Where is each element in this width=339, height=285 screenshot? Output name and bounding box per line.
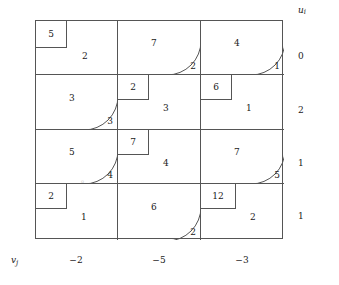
tableau-grid: 5 2 7 2 4 1 3 3 2 3 — [35, 20, 283, 239]
improvement-arc-r1c3: 1 — [251, 41, 284, 75]
table-cell-r4c2: 6 2 — [118, 184, 201, 240]
table-cell-r3c3: 7 5 — [201, 130, 284, 184]
table-cell-r1c2: 7 2 — [118, 21, 201, 75]
cost-value-r4c1: 1 — [81, 213, 87, 222]
cost-value-r1c2: 7 — [151, 39, 157, 48]
cost-value-r3c2: 4 — [163, 159, 169, 168]
table-cell-r2c2: 2 3 — [118, 75, 201, 130]
table-cell-r3c1: 5 4 o — [36, 130, 118, 184]
improvement-value-r3c1: 4 — [107, 171, 113, 180]
ui-value-row-3: 1 — [298, 158, 314, 168]
table-cell-r4c3: 12 2 — [201, 184, 284, 240]
allocation-box-r4c1: 2 — [36, 184, 67, 209]
table-cell-r1c1: 5 2 — [36, 21, 118, 75]
ui-column-header: ui — [298, 5, 306, 16]
cost-value-r2c2: 3 — [163, 104, 169, 113]
cost-value-r4c2: 6 — [151, 203, 157, 212]
allocation-box-r2c2: 2 — [118, 75, 149, 100]
ui-value-row-2: 2 — [298, 105, 314, 115]
ui-value-row-1: 0 — [298, 51, 314, 61]
improvement-arc-r3c1: 4 — [84, 150, 118, 184]
improvement-value-r3c3: 5 — [274, 171, 280, 180]
table-cell-r1c3: 4 1 — [201, 21, 284, 75]
allocation-box-r2c3: 6 — [201, 75, 232, 100]
allocation-box-r4c3: 12 — [201, 184, 236, 209]
cost-value-r3c1: 5 — [69, 148, 75, 157]
vj-value-col-3: −3 — [222, 255, 262, 265]
cost-value-r3c3: 7 — [234, 148, 240, 157]
improvement-value-r1c2: 2 — [190, 62, 196, 71]
vj-header-subscript: j — [16, 259, 18, 267]
ui-header-subscript: i — [304, 8, 306, 16]
improvement-arc-r4c2: 2 — [167, 207, 201, 240]
table-cell-r2c3: 6 1 — [201, 75, 284, 130]
improvement-value-r1c3: 1 — [274, 62, 280, 71]
vj-value-col-1: −2 — [56, 255, 96, 265]
cost-value-r1c3: 4 — [234, 39, 240, 48]
allocation-box-r1c1: 5 — [36, 21, 67, 48]
cost-value-r2c3: 1 — [246, 104, 252, 113]
improvement-value-r2c1: 3 — [107, 117, 113, 126]
transportation-tableau-figure: ui 0 2 1 1 vj −2 −5 −3 5 2 7 2 4 1 — [0, 0, 339, 285]
ui-value-row-4: 1 — [298, 211, 314, 221]
table-cell-r3c2: 7 4 — [118, 130, 201, 184]
allocation-box-r3c2: 7 — [118, 130, 149, 155]
vj-value-col-2: −5 — [139, 255, 179, 265]
improvement-arc-r1c2: 2 — [167, 41, 201, 75]
improvement-arc-r3c3: 5 — [251, 150, 284, 184]
cost-value-r1c1: 2 — [82, 52, 88, 61]
vj-row-header: vj — [11, 255, 18, 267]
cost-value-r4c3: 2 — [250, 213, 256, 222]
improvement-arc-r2c1: 3 — [84, 96, 118, 130]
improvement-value-r4c2: 2 — [190, 228, 196, 237]
table-cell-r4c1: 2 1 — [36, 184, 118, 240]
table-cell-r2c1: 3 3 — [36, 75, 118, 130]
cost-value-r2c1: 3 — [69, 94, 75, 103]
